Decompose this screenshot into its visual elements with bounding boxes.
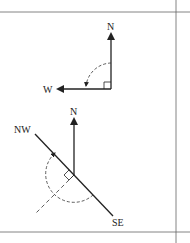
right-angle-marker-bottom: [64, 170, 74, 180]
label-northwest: NW: [14, 124, 31, 135]
label-north-top: N: [107, 21, 114, 32]
label-southeast: SE: [112, 217, 124, 228]
label-west: W: [43, 84, 53, 95]
rotation-arc-bottom: [46, 153, 93, 202]
direction-diagram: N W N NW SE: [0, 0, 190, 243]
label-north-bottom: N: [70, 106, 77, 117]
top-diagram: N W: [43, 21, 114, 95]
right-angle-marker: [104, 82, 111, 89]
rotation-arc: [86, 63, 111, 86]
bottom-diagram: N NW SE: [14, 106, 124, 228]
